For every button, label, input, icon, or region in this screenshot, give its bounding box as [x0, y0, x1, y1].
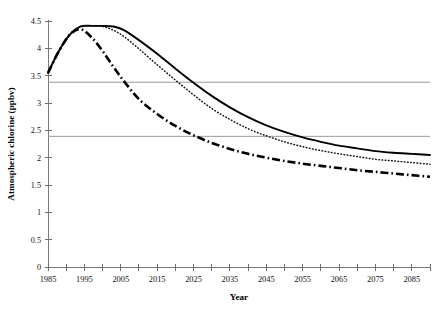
x-tick-label: 2085	[403, 275, 420, 284]
x-axis-group: 1985199520052015202520352045205520652075…	[40, 264, 430, 285]
x-tick-label: 1985	[40, 275, 57, 284]
y-axis-tick-labels: 00.511.522.533.544.5	[31, 17, 41, 272]
x-axis-title: Year	[230, 292, 248, 302]
x-tick-label: 2045	[258, 275, 275, 284]
x-tick-label: 2015	[149, 275, 166, 284]
x-tick-label: 2065	[331, 275, 348, 284]
series-middle-scenario	[48, 26, 430, 165]
y-tick-label: 2.5	[31, 126, 41, 135]
y-tick-label: 2	[37, 154, 41, 163]
series-upper-scenario	[48, 26, 430, 155]
y-tick-label: 4.5	[31, 17, 41, 26]
x-tick-label: 2005	[112, 275, 129, 284]
x-tick-label: 1995	[76, 275, 93, 284]
y-tick-label: 1	[37, 208, 41, 217]
y-tick-label: 0.5	[31, 236, 41, 245]
y-tick-label: 1.5	[31, 181, 41, 190]
y-tick-label: 3	[37, 99, 41, 108]
atmospheric-chlorine-chart: 00.511.522.533.544.5 1985199520052015202…	[0, 0, 446, 313]
series-lower-scenario	[48, 29, 430, 177]
data-series-group	[48, 26, 430, 177]
x-axis-tick-labels: 1985199520052015202520352045205520652075…	[40, 275, 421, 284]
x-tick-label: 2025	[185, 275, 202, 284]
y-axis-group: 00.511.522.533.544.5	[31, 17, 52, 272]
y-tick-label: 0	[37, 263, 41, 272]
x-tick-label: 2075	[367, 275, 384, 284]
reference-lines-group	[48, 82, 430, 136]
y-tick-label: 3.5	[31, 72, 41, 81]
y-axis-title: Atmospheric chlorine (ppbv)	[6, 87, 16, 200]
x-tick-label: 2035	[222, 275, 239, 284]
chart-svg: 00.511.522.533.544.5 1985199520052015202…	[0, 0, 446, 313]
x-tick-label: 2055	[294, 275, 311, 284]
y-tick-label: 4	[37, 44, 41, 53]
